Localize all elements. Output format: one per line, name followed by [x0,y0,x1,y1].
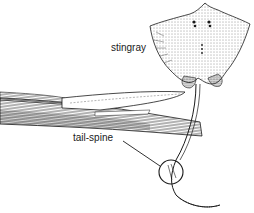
tail-spine-leader-line [123,141,160,166]
stingray-diagram: stingray tail-spine [0,0,254,213]
label-tail-spine: tail-spine [73,133,113,143]
tail-spine-callout [123,141,183,184]
stingray-tail [172,84,221,207]
label-stingray: stingray [111,43,146,53]
illustration [0,0,254,213]
stingray-body [150,3,250,88]
